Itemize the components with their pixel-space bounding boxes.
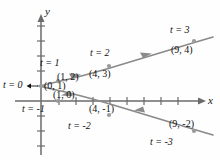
point-marker-t0 xyxy=(39,84,43,88)
t-label-tm1: t = -1 xyxy=(22,104,45,114)
t-label-t1: t = 1 xyxy=(40,58,60,68)
x-axis-label: x xyxy=(208,95,213,106)
t-label-tm3: t = -3 xyxy=(150,137,173,147)
point-marker-t3 xyxy=(192,39,196,43)
t-label-t2: t = 2 xyxy=(90,48,110,58)
point-marker-tm3 xyxy=(192,129,196,133)
t-label-t3: t = 3 xyxy=(170,25,190,35)
t-label-t0: t = 0 xyxy=(3,80,23,90)
y-axis-arrowhead xyxy=(38,14,45,22)
point-label-tm1: (1, 0) xyxy=(53,90,75,100)
point-label-t3: (9, 4) xyxy=(171,45,193,55)
parametric-curve-figure: y x t = 3 (9, 4) t = 2 (4, 3) t = 1 (1, … xyxy=(0,0,220,160)
t0-pointer xyxy=(27,84,39,89)
point-label-tm3: (9, -2) xyxy=(169,119,194,129)
point-label-t2: (4, 3) xyxy=(89,69,111,79)
y-axis-label: y xyxy=(45,6,50,17)
x-axis-arrowhead xyxy=(198,98,206,105)
point-label-tm2: (4, -1) xyxy=(89,104,114,114)
t-label-tm2: t = -2 xyxy=(68,121,91,131)
